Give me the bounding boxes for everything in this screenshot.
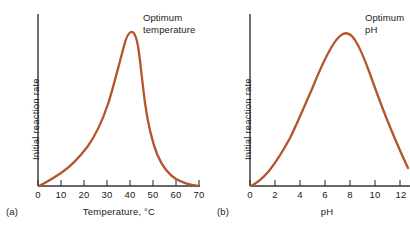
panel-b-ph: 0 2 4 6 8 10 12 pH Initial reaction rate… [205, 0, 410, 233]
panel-b-annotation-line1: Optimum [365, 12, 404, 24]
panel-a-xtick-40: 40 [125, 189, 136, 200]
panel-a-xtick-50: 50 [148, 189, 159, 200]
panel-b-annotation-line2: pH [365, 24, 404, 36]
panel-a-letter: (a) [6, 206, 18, 217]
panel-b-xtick-2: 2 [272, 189, 277, 200]
panel-b-letter: (b) [217, 206, 229, 217]
panel-b-x-axis-title: pH [321, 206, 334, 217]
panel-b-xtick-10: 10 [370, 189, 381, 200]
enzyme-kinetics-figure: 0 10 20 30 40 50 60 70 Temperature, °C I… [0, 0, 410, 233]
panel-b-x-ticks [250, 180, 400, 186]
panel-a-annotation: Optimum temperature [143, 12, 195, 35]
panel-a-y-axis-title: Initial reaction rate [30, 78, 41, 160]
panel-a-x-ticks [38, 180, 199, 186]
panel-a-xtick-60: 60 [171, 189, 182, 200]
panel-a-xtick-0: 0 [35, 189, 40, 200]
panel-b-xtick-4: 4 [297, 189, 302, 200]
panel-a-xtick-30: 30 [102, 189, 113, 200]
panel-b-annotation: Optimum pH [365, 12, 404, 35]
panel-b-xtick-12: 12 [396, 189, 407, 200]
panel-b-xtick-0: 0 [247, 189, 252, 200]
panel-a-annotation-line1: Optimum [143, 12, 195, 24]
panel-a-temperature: 0 10 20 30 40 50 60 70 Temperature, °C I… [0, 0, 205, 233]
panel-a-curve [39, 32, 198, 186]
panel-b-xtick-8: 8 [347, 189, 352, 200]
panel-a-annotation-line2: temperature [143, 24, 195, 36]
panel-a-xtick-20: 20 [79, 189, 90, 200]
panel-a-x-axis-title: Temperature, °C [83, 206, 155, 217]
panel-b-xtick-6: 6 [322, 189, 327, 200]
panel-a-xtick-70: 70 [194, 189, 205, 200]
panel-b-y-axis-title: Initial reaction rate [242, 78, 253, 160]
panel-b-curve [251, 33, 408, 186]
panel-a-xtick-10: 10 [56, 189, 67, 200]
